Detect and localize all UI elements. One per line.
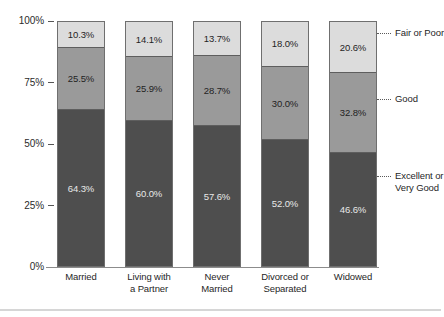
legend-label-good: Good [395,93,418,105]
x-axis-labels: Married Living with a Partner Never Marr… [57,271,377,311]
y-tick-label-25: 25% [24,199,44,213]
x-label-married: Married [57,271,105,311]
legend-label-line1: Excellent or [395,170,443,181]
segment-value-label: 32.8% [340,107,366,118]
segment-value-label: 13.7% [204,33,230,44]
y-tick-75: 75% [24,76,57,90]
segment-value-label: 25.5% [68,73,94,84]
segment-value-label: 57.6% [204,191,230,202]
legend-label-fair-or-poor: Fair or Poor [395,27,444,39]
leader-line-icon [377,176,391,178]
y-tick-mark-75 [48,82,54,83]
segment-value-label: 18.0% [272,38,298,49]
bar-column-divorced-or-separated: 18.0% 30.0% 52.0% [261,21,309,267]
segment-value-label: 25.9% [136,83,162,94]
x-label-divorced-or-separated: Divorced or Separated [261,271,309,311]
segment-good[interactable]: 32.8% [330,72,376,152]
y-tick-mark-100 [48,21,54,22]
legend-item-fair-or-poor[interactable]: Fair or Poor [377,27,444,39]
y-tick-label-100: 100% [19,14,44,28]
x-label-line1: Widowed [334,271,372,282]
bar-stack[interactable]: 20.6% 32.8% 46.6% [329,21,377,267]
bar-stack[interactable]: 13.7% 28.7% 57.6% [193,21,241,267]
bar-column-widowed: 20.6% 32.8% 46.6% [329,21,377,267]
legend: Fair or Poor Good Excellent or Very Good [377,0,441,317]
x-axis-line [46,267,379,268]
segment-value-label: 28.7% [204,85,230,96]
segment-value-label: 64.3% [68,183,94,194]
x-label-line2: Separated [261,283,309,295]
y-tick-100: 100% [19,14,57,28]
x-label-line1: Married [65,271,97,282]
segment-fair-or-poor[interactable]: 20.6% [330,22,376,72]
segment-good[interactable]: 25.5% [58,47,104,109]
segment-fair-or-poor[interactable]: 13.7% [194,22,240,55]
segment-value-label: 52.0% [272,198,298,209]
y-tick-label-50: 50% [24,137,44,151]
segment-excellent-or-very-good[interactable]: 64.3% [58,109,104,266]
segment-value-label: 20.6% [340,42,366,53]
segment-excellent-or-very-good[interactable]: 52.0% [262,139,308,266]
segment-value-label: 60.0% [136,188,162,199]
bar-group: 10.3% 25.5% 64.3% 14.1% 25.9% [57,21,377,267]
legend-item-good[interactable]: Good [377,93,418,105]
legend-label-line2: Very Good [395,182,443,194]
x-label-line1: Divorced or [261,271,308,282]
bar-stack[interactable]: 10.3% 25.5% 64.3% [57,21,105,267]
x-label-line2: a Partner [125,283,173,295]
y-tick-label-0: 0% [30,260,44,274]
y-axis: 100% 75% 50% 25% 0% [0,0,57,317]
y-tick-25: 25% [24,199,57,213]
segment-excellent-or-very-good[interactable]: 60.0% [126,120,172,266]
segment-good[interactable]: 28.7% [194,55,240,125]
bar-stack[interactable]: 18.0% 30.0% 52.0% [261,21,309,267]
x-label-line2: Married [193,283,241,295]
segment-fair-or-poor[interactable]: 14.1% [126,22,172,56]
segment-fair-or-poor[interactable]: 10.3% [58,22,104,47]
segment-good[interactable]: 25.9% [126,56,172,119]
segment-value-label: 14.1% [136,34,162,45]
legend-item-excellent-or-very-good[interactable]: Excellent or Very Good [377,170,443,193]
bar-column-married: 10.3% 25.5% 64.3% [57,21,105,267]
bottom-separator [0,309,441,311]
x-label-widowed: Widowed [329,271,377,311]
bar-column-never-married: 13.7% 28.7% 57.6% [193,21,241,267]
bar-stack[interactable]: 14.1% 25.9% 60.0% [125,21,173,267]
plot-area: 10.3% 25.5% 64.3% 14.1% 25.9% [57,21,377,267]
x-label-line1: Living with [127,271,170,282]
y-tick-50: 50% [24,137,57,151]
y-tick-mark-25 [48,205,54,206]
x-label-line1: Never [205,271,230,282]
x-label-never-married: Never Married [193,271,241,311]
segment-excellent-or-very-good[interactable]: 46.6% [330,152,376,266]
y-tick-label-75: 75% [24,76,44,90]
leader-line-icon [377,99,391,101]
segment-value-label: 30.0% [272,98,298,109]
leader-line-icon [377,33,391,35]
segment-value-label: 46.6% [340,204,366,215]
segment-excellent-or-very-good[interactable]: 57.6% [194,125,240,266]
x-label-living-with-a-partner: Living with a Partner [125,271,173,311]
segment-good[interactable]: 30.0% [262,66,308,139]
segment-value-label: 10.3% [68,29,94,40]
bar-column-living-with-a-partner: 14.1% 25.9% 60.0% [125,21,173,267]
legend-label-excellent-or-very-good: Excellent or Very Good [395,170,443,193]
y-tick-mark-50 [48,144,54,145]
segment-fair-or-poor[interactable]: 18.0% [262,22,308,66]
